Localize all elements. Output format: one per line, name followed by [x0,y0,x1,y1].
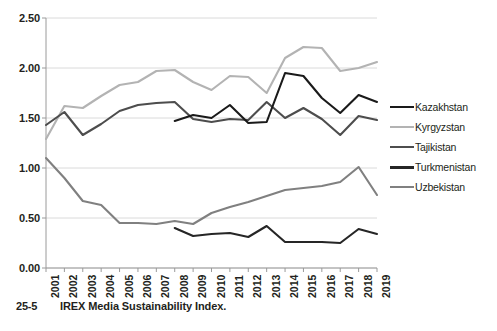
x-tick-label: 2008 [179,275,190,298]
caption-number: 25-5 [16,300,60,312]
legend-item-turkmenistan[interactable]: Turkmenistan [390,160,476,174]
x-tick-label: 2010 [216,275,227,298]
figure-container: 0.000.501.001.502.002.50 200120022003200… [0,0,497,331]
legend-swatch-icon [390,126,414,128]
data-series-group [46,47,377,243]
figure-caption: 25-5 IREX Media Sustainability Index. [16,300,416,320]
x-tick-label: 2017 [344,275,355,298]
x-tick-label: 2002 [68,275,79,298]
series-line-kazakhstan [175,73,377,123]
x-tick-label: 2018 [363,275,374,298]
caption-text: IREX Media Sustainability Index. [60,300,226,312]
x-tick-label: 2009 [197,275,208,298]
x-tick-label: 2012 [252,275,263,298]
legend-swatch-icon [390,106,414,108]
series-line-kyrgyzstan [46,47,377,139]
chart-plot-area: 0.000.501.001.502.002.50 200120022003200… [0,0,390,296]
chart-legend: KazakhstanKyrgyzstanTajikistanTurkmenist… [390,100,497,204]
legend-label: Kyrgyzstan [415,122,465,133]
x-tick-label: 2006 [142,275,153,298]
x-tick-label: 2011 [234,275,245,298]
legend-label: Tajikistan [415,142,456,153]
legend-item-kazakhstan[interactable]: Kazakhstan [390,100,468,114]
x-tick-label: 2019 [381,275,392,298]
legend-label: Turkmenistan [415,162,476,173]
x-tick-label: 2003 [87,275,98,298]
x-tick-label: 2016 [326,275,337,298]
chart-canvas [0,0,390,296]
legend-label: Kazakhstan [415,102,468,113]
legend-label: Uzbekistan [415,182,465,193]
legend-swatch-icon [390,146,414,148]
x-tick-label: 2004 [105,275,116,298]
series-line-turkmenistan [175,226,377,243]
legend-item-tajikistan[interactable]: Tajikistan [390,140,456,154]
x-tick-label: 2015 [307,275,318,298]
x-tick-label: 2005 [124,275,135,298]
legend-item-kyrgyzstan[interactable]: Kyrgyzstan [390,120,465,134]
x-tick-label: 2014 [289,275,300,298]
legend-swatch-icon [390,186,414,188]
legend-swatch-icon [390,166,414,169]
x-tick-label: 2013 [271,275,282,298]
x-tick-label: 2001 [50,275,61,298]
legend-item-uzbekistan[interactable]: Uzbekistan [390,180,465,194]
x-tick-label: 2007 [160,275,171,298]
